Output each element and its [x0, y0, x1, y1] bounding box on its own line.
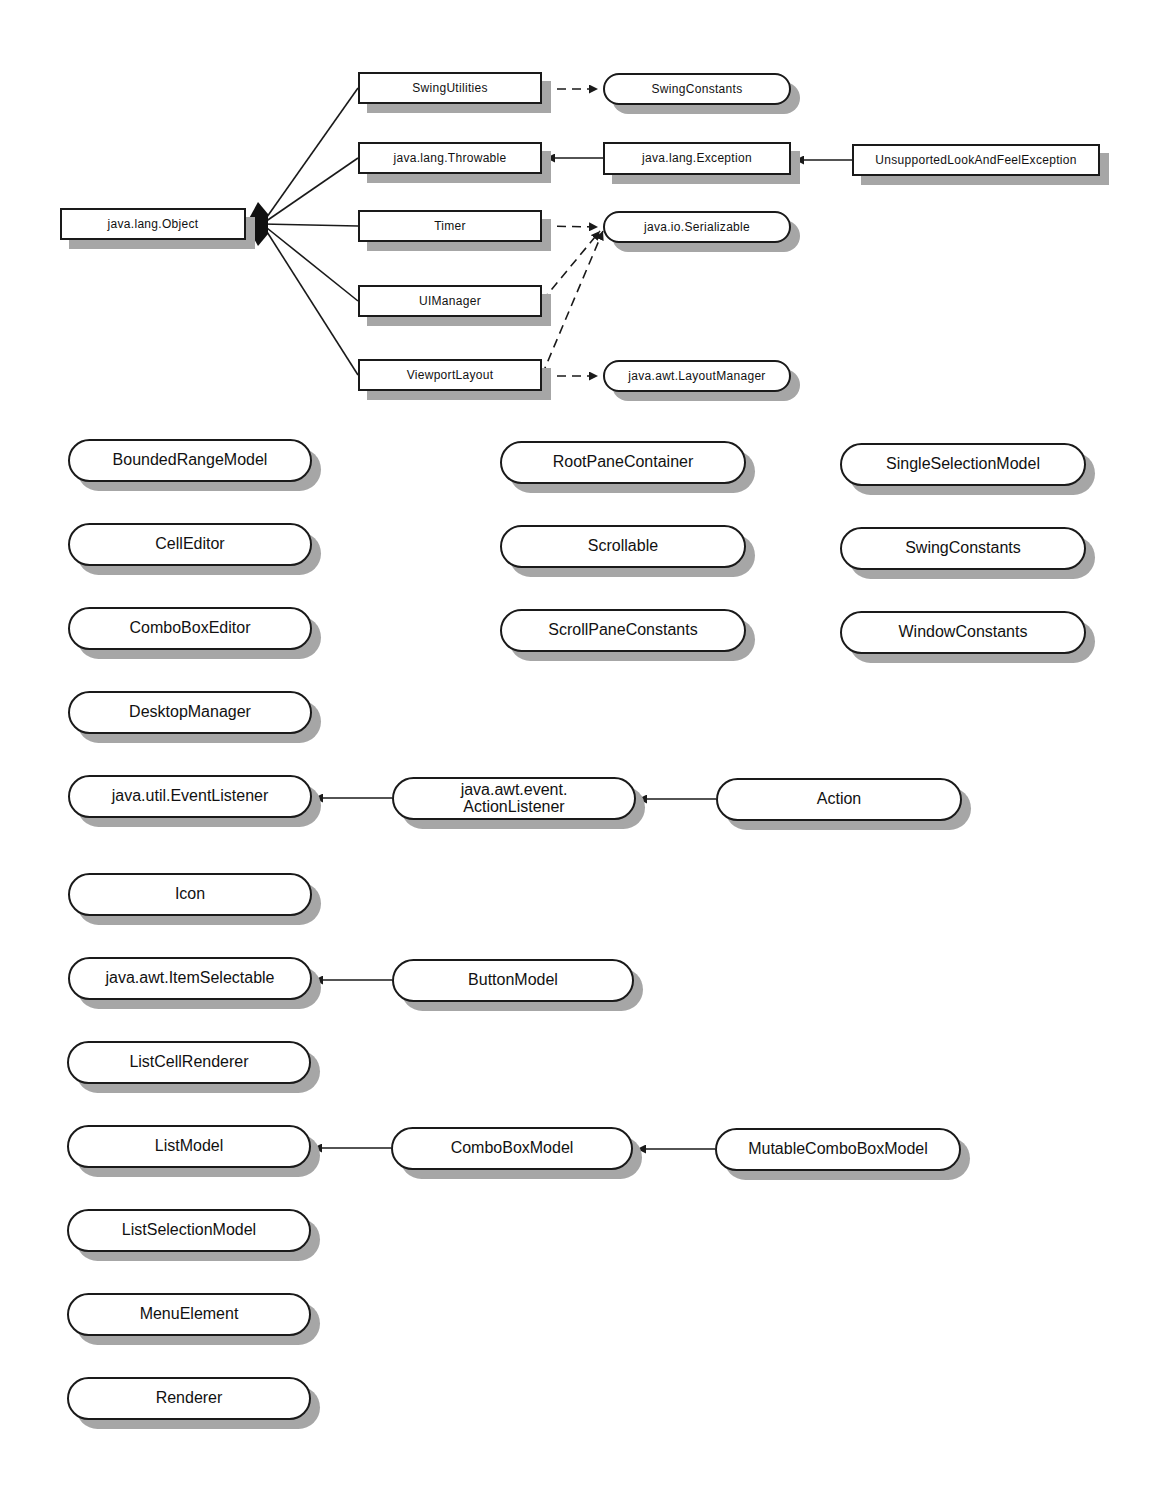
- interface-java-awt-event-actionlistener[interactable]: java.awt.event. ActionListener: [392, 777, 636, 820]
- node-label: Action: [817, 791, 861, 808]
- node-label: SwingConstants: [652, 83, 743, 96]
- node-label: java.awt.event. ActionListener: [461, 782, 568, 816]
- interface-menuelement[interactable]: MenuElement: [67, 1293, 311, 1336]
- node-label: UnsupportedLookAndFeelException: [875, 154, 1076, 167]
- node-label: ViewportLayout: [407, 369, 494, 382]
- interface-singleselectionmodel[interactable]: SingleSelectionModel: [840, 443, 1086, 486]
- node-label: Renderer: [156, 1390, 223, 1407]
- node-label: WindowConstants: [899, 624, 1028, 641]
- node-label: ListModel: [155, 1138, 223, 1155]
- interface-boundedrangemodel[interactable]: BoundedRangeModel: [68, 439, 312, 482]
- class-java-lang-exception[interactable]: java.lang.Exception: [603, 142, 791, 175]
- inheritance-fan: [262, 88, 358, 375]
- class-java-lang-throwable[interactable]: java.lang.Throwable: [358, 142, 542, 174]
- node-label: Scrollable: [588, 538, 658, 555]
- node-label: java.lang.Object: [108, 218, 199, 231]
- interface-action[interactable]: Action: [716, 778, 962, 821]
- class-timer[interactable]: Timer: [358, 210, 542, 242]
- interface-comboboxmodel[interactable]: ComboBoxModel: [391, 1127, 633, 1170]
- node-label: SwingConstants: [905, 540, 1021, 557]
- interface-java-awt-layoutmanager[interactable]: java.awt.LayoutManager: [603, 360, 791, 392]
- node-label: MutableComboBoxModel: [748, 1141, 928, 1158]
- class-java-lang-object[interactable]: java.lang.Object: [60, 208, 246, 240]
- node-label: ScrollPaneConstants: [548, 622, 697, 639]
- node-label: java.lang.Exception: [642, 152, 752, 165]
- interface-mutablecomboboxmodel[interactable]: MutableComboBoxModel: [715, 1128, 961, 1171]
- node-label: CellEditor: [155, 536, 224, 553]
- node-label: Timer: [434, 220, 466, 233]
- interface-listmodel[interactable]: ListModel: [67, 1125, 311, 1168]
- interface-celleditor[interactable]: CellEditor: [68, 523, 312, 566]
- interface-swingconstants-top[interactable]: SwingConstants: [603, 73, 791, 105]
- node-label: RootPaneContainer: [553, 454, 694, 471]
- class-viewportlayout[interactable]: ViewportLayout: [358, 359, 542, 391]
- interface-java-io-serializable[interactable]: java.io.Serializable: [603, 211, 791, 243]
- class-swingutilities[interactable]: SwingUtilities: [358, 72, 542, 104]
- interface-scrollable[interactable]: Scrollable: [500, 525, 746, 568]
- interface-windowconstants[interactable]: WindowConstants: [840, 611, 1086, 654]
- class-uimanager[interactable]: UIManager: [358, 285, 542, 317]
- interface-desktopmanager[interactable]: DesktopManager: [68, 691, 312, 734]
- interface-comboboxeditor[interactable]: ComboBoxEditor: [68, 607, 312, 650]
- node-label: BoundedRangeModel: [113, 452, 268, 469]
- node-label: java.io.Serializable: [644, 221, 750, 234]
- node-label: DesktopManager: [129, 704, 251, 721]
- node-label: ListSelectionModel: [122, 1222, 256, 1239]
- uml-diagram-canvas: java.lang.Object SwingUtilities java.lan…: [0, 0, 1157, 1495]
- node-label: java.util.EventListener: [112, 788, 269, 805]
- node-label: ComboBoxModel: [451, 1140, 574, 1157]
- node-label: SwingUtilities: [412, 82, 488, 95]
- interface-scrollpaneconstants[interactable]: ScrollPaneConstants: [500, 609, 746, 652]
- interface-java-util-eventlistener[interactable]: java.util.EventListener: [68, 775, 312, 818]
- interface-renderer[interactable]: Renderer: [67, 1377, 311, 1420]
- interface-listselectionmodel[interactable]: ListSelectionModel: [67, 1209, 311, 1252]
- class-unsupportedlookandfeelexception[interactable]: UnsupportedLookAndFeelException: [852, 144, 1100, 176]
- node-label: SingleSelectionModel: [886, 456, 1040, 473]
- node-label: Icon: [175, 886, 205, 903]
- node-label: ButtonModel: [468, 972, 558, 989]
- interface-listcellrenderer[interactable]: ListCellRenderer: [67, 1041, 311, 1084]
- node-label: ComboBoxEditor: [130, 620, 251, 637]
- node-label: MenuElement: [140, 1306, 239, 1323]
- interface-swingconstants[interactable]: SwingConstants: [840, 527, 1086, 570]
- interface-icon[interactable]: Icon: [68, 873, 312, 916]
- aggregate-inheritance-head-icon: [246, 202, 268, 246]
- node-label: java.lang.Throwable: [393, 152, 506, 165]
- node-label: java.awt.ItemSelectable: [106, 970, 275, 987]
- interface-rootpanecontainer[interactable]: RootPaneContainer: [500, 441, 746, 484]
- interface-buttonmodel[interactable]: ButtonModel: [392, 959, 634, 1002]
- node-label: ListCellRenderer: [129, 1054, 248, 1071]
- interface-java-awt-itemselectable[interactable]: java.awt.ItemSelectable: [68, 957, 312, 1000]
- node-label: java.awt.LayoutManager: [628, 370, 765, 383]
- node-label: UIManager: [419, 295, 481, 308]
